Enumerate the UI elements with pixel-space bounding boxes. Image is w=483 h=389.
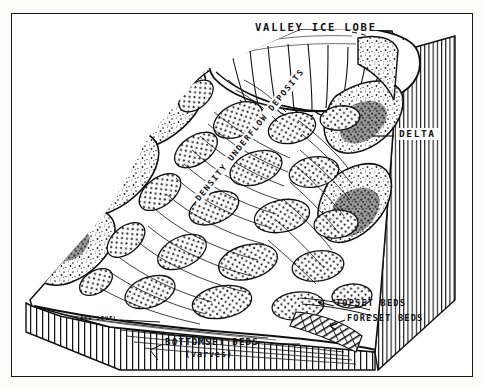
label-foreset-beds: FORESET BEDS (347, 314, 424, 323)
block-diagram-artwork (0, 0, 483, 389)
label-lake-level: LAKE LEVEL (76, 316, 117, 322)
figure-page: VALLEY ICE LOBE DELTA DENSITY UNDERFLOW … (0, 0, 483, 389)
label-delta: DELTA (396, 128, 439, 140)
label-bottomset-beds: BOTTOMSET BEDS (165, 338, 259, 347)
label-topset-beds: TOPSET BEDS (336, 299, 406, 308)
label-valley-ice-lobe: VALLEY ICE LOBE (255, 22, 377, 33)
label-varves: (varves) (185, 350, 233, 359)
